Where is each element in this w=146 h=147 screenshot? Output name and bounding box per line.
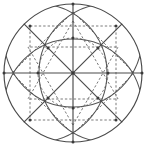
node-inner-top (72, 37, 75, 40)
node-left (3, 72, 6, 75)
node-right (141, 72, 144, 75)
node-inner-bottom (72, 107, 75, 110)
node-se (97, 97, 100, 100)
node-nw (47, 47, 50, 50)
node-top (72, 3, 75, 6)
node-outer-sw (29, 119, 32, 122)
node-bottom (72, 141, 75, 144)
geometry-figure-container (0, 0, 146, 147)
node-ne (97, 47, 100, 50)
node-center (71, 71, 75, 75)
node-outer-ne (115, 25, 118, 28)
node-outer-se (115, 119, 118, 122)
node-inner-right (107, 72, 110, 75)
node-sw (47, 97, 50, 100)
node-inner-left (37, 72, 40, 75)
geometry-figure-svg (0, 0, 146, 147)
node-outer-nw (29, 25, 32, 28)
